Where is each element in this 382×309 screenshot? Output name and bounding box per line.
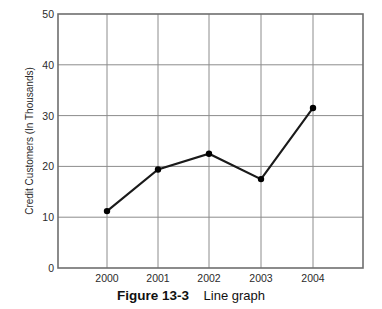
figure-line-graph: Credit Customers (In Thousands) 50 40 30… (0, 0, 382, 309)
x-tick-label-2003: 2003 (231, 272, 291, 284)
figure-caption-label: Figure 13-3 (117, 288, 189, 303)
x-tick-label-2002: 2002 (179, 272, 239, 284)
figure-caption-text: Line graph (204, 288, 265, 303)
figure-caption: Figure 13-3 Line graph (0, 288, 382, 304)
x-axis-tick-labels: 2000 2001 2002 2003 2004 (0, 0, 382, 309)
x-tick-label-2004: 2004 (283, 272, 343, 284)
